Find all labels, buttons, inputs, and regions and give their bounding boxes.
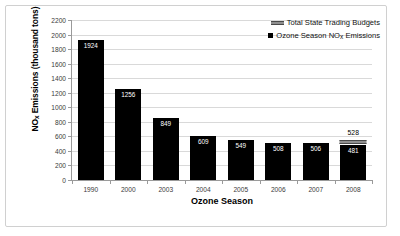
bar-emissions[interactable]: 506	[303, 143, 329, 180]
bar-value-label: 481	[340, 148, 366, 154]
y-axis-tick-label: 1000	[26, 104, 66, 111]
bar-emissions[interactable]: 508	[265, 143, 291, 180]
bar-group[interactable]: 1924	[72, 20, 110, 180]
bar-emissions[interactable]: 1924	[78, 40, 104, 180]
legend-item-total-state-trading-budgets: Total State Trading Budgets	[268, 18, 380, 27]
legend-label-budgets: Total State Trading Budgets	[287, 18, 380, 27]
x-axis-tick-mark	[222, 180, 223, 184]
bar-group[interactable]: 849	[147, 20, 185, 180]
legend-item-ozone-season-nox-emissions: Ozone Season NOx Emissions	[268, 31, 380, 40]
bar-value-label: 1256	[115, 92, 141, 98]
bar-value-label: 849	[153, 121, 179, 127]
x-axis-tick-label: 2008	[329, 186, 377, 193]
bar-value-label: 1924	[78, 43, 104, 49]
y-axis-tick-label: 1400	[26, 75, 66, 82]
bar-group[interactable]: 549	[222, 20, 260, 180]
y-axis-tick-label: 2000	[26, 31, 66, 38]
budget-marker[interactable]	[340, 140, 367, 144]
bar-emissions[interactable]: 849	[153, 118, 179, 180]
bar-emissions[interactable]: 549	[228, 140, 254, 180]
x-axis-tick-mark	[260, 180, 261, 184]
y-axis-tick-label: 400	[26, 147, 66, 154]
y-axis-tick-label: 200	[26, 162, 66, 169]
legend-label-emissions-suffix: Emissions	[343, 31, 380, 40]
x-axis-tick-mark	[72, 180, 73, 184]
x-axis-tick-mark	[147, 180, 148, 184]
x-axis-tick-mark	[110, 180, 111, 184]
bar-value-label: 609	[190, 139, 216, 145]
bar-group[interactable]: 1256	[110, 20, 148, 180]
square-marker-icon	[268, 33, 273, 38]
y-axis-tick-label: 1600	[26, 60, 66, 67]
chart-legend: Total State Trading Budgets Ozone Season…	[268, 18, 380, 44]
x-axis-tick-mark	[372, 180, 373, 184]
y-axis-tick-label: 2200	[26, 17, 66, 24]
x-axis-tick-mark	[335, 180, 336, 184]
bar-marker-icon	[271, 21, 284, 25]
chart-container: NOx Emissions (thousand tons) 1924125684…	[5, 5, 387, 227]
bar-emissions[interactable]: 609	[190, 136, 216, 180]
bar-value-label: 506	[303, 146, 329, 152]
legend-label-emissions: Ozone Season NOx Emissions	[276, 31, 380, 40]
budget-value-label: 528	[348, 129, 359, 136]
x-axis-title: Ozone Season	[72, 196, 372, 206]
y-axis-tick-label: 600	[26, 133, 66, 140]
bar-emissions[interactable]: 1256	[115, 89, 141, 180]
bar-group[interactable]: 609	[185, 20, 223, 180]
bar-value-label: 549	[228, 143, 254, 149]
bar-value-label: 508	[265, 146, 291, 152]
legend-label-emissions-prefix: Ozone Season NO	[276, 31, 340, 40]
y-axis-tick-label: 0	[26, 177, 66, 184]
x-axis-tick-mark	[185, 180, 186, 184]
y-axis-tick-label: 1800	[26, 46, 66, 53]
x-axis-tick-mark	[297, 180, 298, 184]
bar-emissions[interactable]: 481	[340, 145, 366, 180]
y-axis-tick-label: 1200	[26, 89, 66, 96]
y-axis-tick-label: 800	[26, 118, 66, 125]
